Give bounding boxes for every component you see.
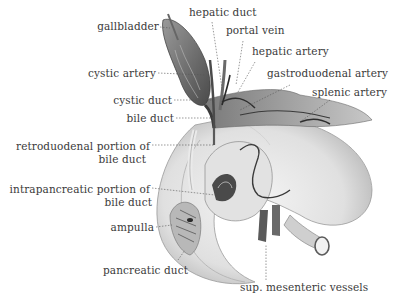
anatomy-figure: gallbladder hepatic duct portal vein hep… — [0, 0, 397, 294]
label-splenic-artery: splenic artery — [312, 86, 387, 98]
label-hepatic-artery: hepatic artery — [252, 45, 329, 57]
label-retroduodenal-line1: retroduodenal portion of — [6, 140, 150, 152]
label-retroduodenal-line2: bile duct — [6, 153, 146, 165]
label-intrapancreatic-line2: bile duct — [6, 196, 152, 208]
label-gastroduodenal-artery: gastroduodenal artery — [267, 67, 388, 79]
label-pancreatic-duct: pancreatic duct — [103, 264, 188, 276]
label-ampulla: ampulla — [80, 221, 154, 233]
label-portal-vein: portal vein — [226, 24, 285, 36]
label-sup-mesenteric-vessels: sup. mesenteric vessels — [240, 281, 368, 293]
label-hepatic-duct: hepatic duct — [189, 6, 257, 18]
label-intrapancreatic-line1: intrapancreatic portion of — [6, 183, 150, 195]
label-cystic-duct: cystic duct — [90, 94, 172, 106]
label-bile-duct: bile duct — [100, 112, 174, 124]
label-cystic-artery: cystic artery — [60, 67, 156, 79]
label-gallbladder: gallbladder — [80, 20, 159, 32]
